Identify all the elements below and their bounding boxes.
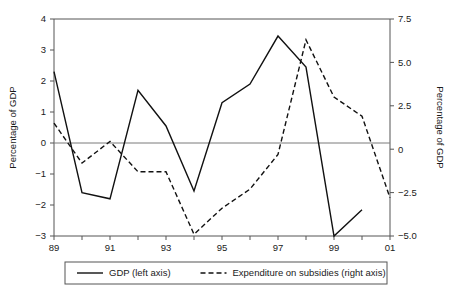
right-axis-tick-label: 0 (398, 144, 403, 155)
right-axis-tick-label: 2.5 (398, 100, 411, 111)
x-axis-tick-label: 89 (49, 242, 60, 253)
left-axis-title: Percentage of GDP (7, 86, 18, 168)
left-axis-tick-label: 1 (41, 106, 46, 117)
series-line-subsidies (54, 40, 390, 234)
right-axis-title: Percentage of GDP (435, 86, 446, 168)
series-group (54, 36, 390, 236)
series-line-gdp (54, 36, 362, 236)
x-axis-tick-label: 01 (385, 242, 396, 253)
left-axis-tick-label: 0 (41, 137, 46, 148)
left-axis-tick-label: 2 (41, 75, 46, 86)
left-axis-tick-label: 3 (41, 44, 46, 55)
axes-group: 43210−1−2−37.55.02.50−2.5−5.089919395979… (7, 13, 446, 253)
left-axis-tick-label: −3 (35, 230, 46, 241)
left-axis-tick-label: 4 (41, 13, 46, 24)
x-axis-tick-label: 93 (161, 242, 172, 253)
x-axis-tick-label: 97 (273, 242, 284, 253)
legend-item-label: GDP (left axis) (109, 267, 171, 278)
legend-item-label: Expenditure on subsidies (right axis) (233, 267, 386, 278)
right-axis-tick-label: −5.0 (398, 230, 417, 241)
right-axis-tick-label: 5.0 (398, 57, 411, 68)
left-axis-tick-label: −2 (35, 199, 46, 210)
x-axis-tick-label: 99 (329, 242, 340, 253)
left-axis-tick-label: −1 (35, 168, 46, 179)
x-axis-tick-label: 95 (217, 242, 228, 253)
x-axis-tick-label: 91 (105, 242, 116, 253)
chart-container: 43210−1−2−37.55.02.50−2.5−5.089919395979… (0, 0, 453, 292)
right-axis-tick-label: −2.5 (398, 187, 417, 198)
right-axis-tick-label: 7.5 (398, 13, 411, 24)
legend-group: GDP (left axis)Expenditure on subsidies … (65, 262, 387, 284)
dual-axis-line-chart: 43210−1−2−37.55.02.50−2.5−5.089919395979… (0, 0, 453, 292)
